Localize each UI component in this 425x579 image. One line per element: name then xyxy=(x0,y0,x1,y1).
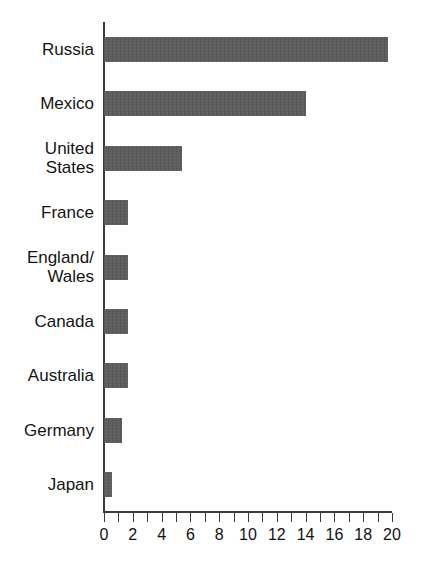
x-tick xyxy=(378,513,379,522)
bar-russia xyxy=(104,37,388,62)
x-tick xyxy=(291,513,292,522)
x-tick xyxy=(248,513,249,522)
x-tick xyxy=(392,513,393,522)
bar-france xyxy=(104,200,128,225)
x-tick xyxy=(162,513,163,522)
category-label: France xyxy=(0,203,94,222)
category-label: Canada xyxy=(0,312,94,331)
x-tick xyxy=(277,513,278,522)
x-tick xyxy=(306,513,307,522)
category-label: England/ Wales xyxy=(0,248,94,286)
x-tick xyxy=(205,513,206,522)
bar-japan xyxy=(104,472,112,497)
bar-australia xyxy=(104,363,128,388)
bar-england--wales xyxy=(104,255,128,280)
x-tick xyxy=(133,513,134,522)
category-label: Russia xyxy=(0,40,94,59)
x-tick xyxy=(104,513,105,522)
x-tick xyxy=(118,513,119,522)
x-tick-label: 20 xyxy=(372,526,412,544)
bar-mexico xyxy=(104,91,306,116)
category-label: United States xyxy=(0,139,94,177)
bar-chart: 02468101214161820 RussiaMexicoUnited Sta… xyxy=(0,0,425,579)
x-tick xyxy=(219,513,220,522)
x-tick xyxy=(190,513,191,522)
bar-germany xyxy=(104,418,122,443)
x-tick xyxy=(147,513,148,522)
category-label: Mexico xyxy=(0,94,94,113)
x-tick xyxy=(349,513,350,522)
x-tick xyxy=(262,513,263,522)
category-label: Germany xyxy=(0,421,94,440)
bar-united-states xyxy=(104,146,182,171)
bar-canada xyxy=(104,309,128,334)
x-tick xyxy=(334,513,335,522)
x-tick xyxy=(176,513,177,522)
x-tick xyxy=(363,513,364,522)
x-tick xyxy=(234,513,235,522)
x-tick xyxy=(320,513,321,522)
category-label: Japan xyxy=(0,475,94,494)
category-label: Australia xyxy=(0,366,94,385)
